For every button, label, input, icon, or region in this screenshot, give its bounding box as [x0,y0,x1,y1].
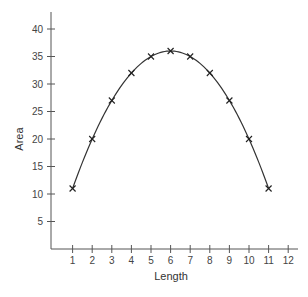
x-tick-label: 12 [283,255,295,266]
x-axis-title: Length [154,270,188,282]
x-marker-icon [246,136,252,142]
x-tick-label: 3 [109,255,115,266]
y-axis-title: Area [13,127,25,151]
x-tick-label: 6 [168,255,174,266]
x-tick-label: 5 [148,255,154,266]
x-marker-icon [109,98,115,104]
x-tick-label: 11 [263,255,274,266]
x-tick-label: 8 [207,255,213,266]
x-tick-label: 4 [129,255,135,266]
x-marker-icon [207,70,213,76]
x-tick-label: 2 [89,255,95,266]
x-tick-label: 1 [70,255,76,266]
x-marker-icon [70,186,76,192]
x-marker-icon [266,186,272,192]
x-marker-icon [226,98,232,104]
x-tick-label: 7 [187,255,193,266]
data-markers [70,48,272,192]
x-marker-icon [128,70,134,76]
y-axis-ticks: 510152025303540 [32,24,55,228]
x-marker-icon [89,136,95,142]
y-tick-label: 40 [32,24,44,35]
y-tick-label: 5 [37,216,43,227]
y-tick-label: 10 [32,189,44,200]
y-tick-label: 15 [32,161,44,172]
y-tick-label: 25 [32,106,44,117]
axes [51,12,298,249]
x-marker-icon [187,54,193,60]
area-vs-length-chart: 123456789101112 510152025303540 Length A… [0,0,308,297]
x-axis-ticks: 123456789101112 [70,245,294,266]
y-tick-label: 20 [32,134,44,145]
x-tick-label: 10 [243,255,255,266]
x-tick-label: 9 [227,255,233,266]
x-marker-icon [148,54,154,60]
data-curve [73,51,269,189]
y-tick-label: 35 [32,51,44,62]
y-tick-label: 30 [32,79,44,90]
